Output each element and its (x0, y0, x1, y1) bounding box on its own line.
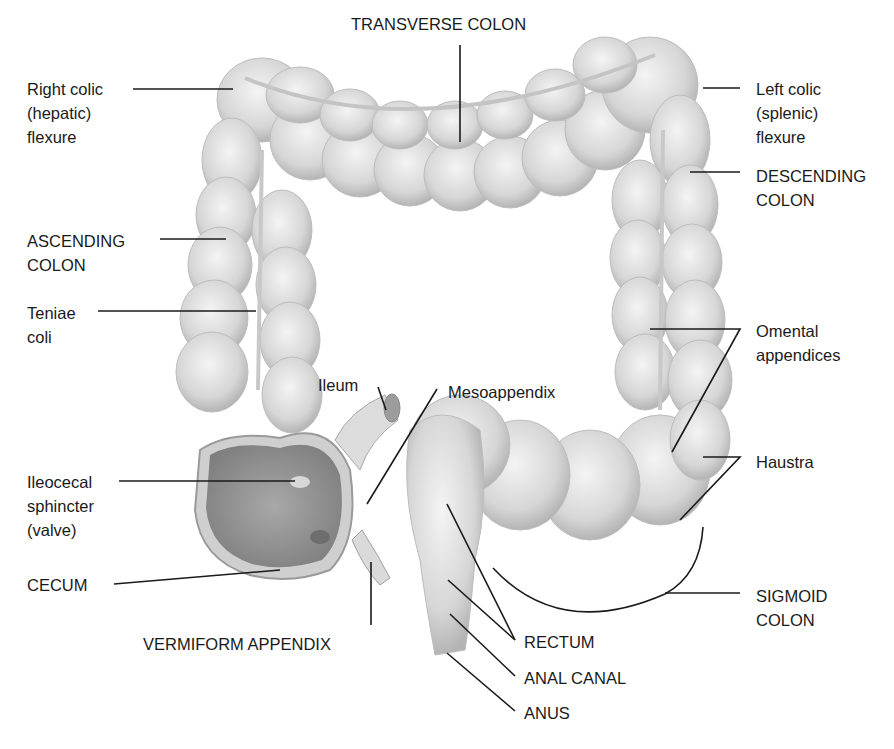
label-transverse-colon: TRANSVERSE COLON (351, 12, 526, 36)
label-ascending-colon: ASCENDING COLON (27, 229, 125, 277)
label-ileocecal-sphincter: Ileocecal sphincter (valve) (27, 470, 94, 542)
label-omental-appendices: Omental appendices (756, 319, 840, 367)
label-vermiform-appendix: VERMIFORM APPENDIX (143, 632, 331, 656)
label-mesoappendix: Mesoappendix (448, 380, 555, 404)
label-left-colic-flexure: Left colic (splenic) flexure (756, 77, 821, 149)
label-teniae-coli: Teniae coli (27, 301, 76, 349)
label-right-colic-flexure: Right colic (hepatic) flexure (27, 77, 103, 149)
label-anal-canal: ANAL CANAL (524, 666, 626, 690)
label-ileum: Ileum (318, 373, 358, 397)
label-rectum: RECTUM (524, 630, 595, 654)
rectum (407, 415, 484, 655)
label-haustra: Haustra (756, 450, 814, 474)
label-anus: ANUS (524, 701, 570, 725)
label-descending-colon: DESCENDING COLON (756, 164, 866, 212)
label-cecum: CECUM (27, 573, 88, 597)
label-sigmoid-colon: SIGMOID COLON (756, 584, 828, 632)
